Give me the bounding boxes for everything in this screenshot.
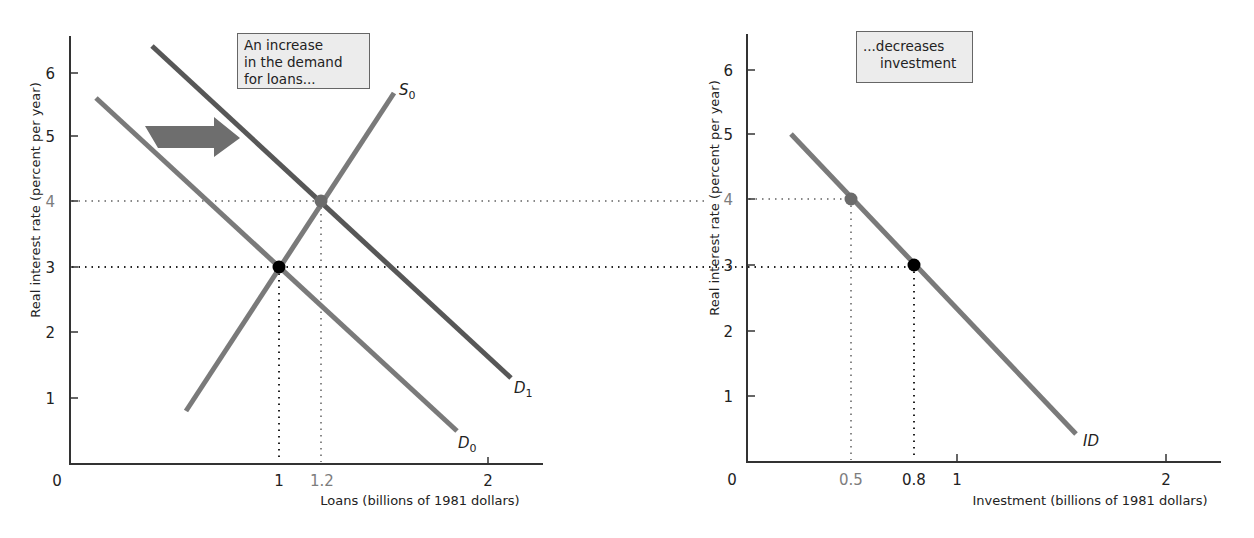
label-id: ID [1083, 432, 1099, 450]
investment-demand-curve-id [791, 134, 1076, 434]
left-ytick-1: 1 [45, 390, 55, 408]
investment-point-initial [908, 259, 921, 272]
equilibrium-point-initial [273, 261, 286, 274]
chart-canvas: 1 2 3 4 5 6 0 1 1.2 2 Loans (billions of… [0, 0, 1254, 538]
right-ytick-1: 1 [723, 388, 733, 406]
right-y-axis-title: Real interest rate (percent per year) [707, 80, 722, 316]
left-xtick-1: 1 [274, 472, 284, 490]
right-ytick-2: 2 [723, 323, 733, 341]
right-ytick-6: 6 [723, 62, 733, 80]
right-chart: 1 2 3 4 5 6 0 0.5 0.8 1 2 Investment (bi… [707, 34, 1221, 508]
left-ytick-2: 2 [45, 324, 55, 342]
left-chart: 1 2 3 4 5 6 0 1 1.2 2 Loans (billions of… [28, 36, 915, 508]
left-callout: An increase in the demand for loans... [237, 33, 370, 89]
left-callout-line-3: for loans... [244, 71, 363, 88]
left-ytick-5: 5 [45, 128, 55, 146]
left-xtick-2: 2 [483, 472, 493, 490]
right-ytick-5: 5 [723, 126, 733, 144]
left-callout-line-2: in the demand [244, 54, 363, 71]
right-ytick-4: 4 [723, 191, 733, 209]
right-callout: ...decreases investment [856, 31, 973, 83]
right-xtick-1: 1 [952, 471, 962, 489]
right-callout-line-1: ...decreases [863, 38, 966, 55]
right-x-axis-title: Investment (billions of 1981 dollars) [972, 493, 1207, 508]
left-x-axis-title: Loans (billions of 1981 dollars) [320, 493, 519, 508]
right-xtick-0-5: 0.5 [839, 471, 863, 489]
right-y-ticks [747, 70, 1166, 462]
right-origin-label: 0 [727, 471, 737, 489]
shift-arrow-icon [145, 117, 240, 157]
equilibrium-point-new [315, 195, 328, 208]
demand-curve-d1 [152, 46, 511, 378]
left-y-axis-title: Real interest rate (percent per year) [28, 82, 43, 318]
label-d1: D1 [514, 379, 533, 400]
right-ytick-3: 3 [723, 257, 733, 275]
left-ytick-4: 4 [45, 193, 55, 211]
left-origin-label: 0 [52, 472, 62, 490]
investment-point-new [845, 193, 858, 206]
left-xtick-1-2: 1.2 [310, 472, 334, 490]
label-s0: S0 [399, 81, 416, 102]
right-xtick-0-8: 0.8 [902, 471, 926, 489]
left-ytick-6: 6 [45, 65, 55, 83]
left-ytick-3: 3 [45, 259, 55, 277]
left-callout-line-1: An increase [244, 37, 363, 54]
label-d0: D0 [458, 434, 477, 455]
right-callout-line-2: investment [863, 55, 966, 72]
right-xtick-2: 2 [1161, 471, 1171, 489]
